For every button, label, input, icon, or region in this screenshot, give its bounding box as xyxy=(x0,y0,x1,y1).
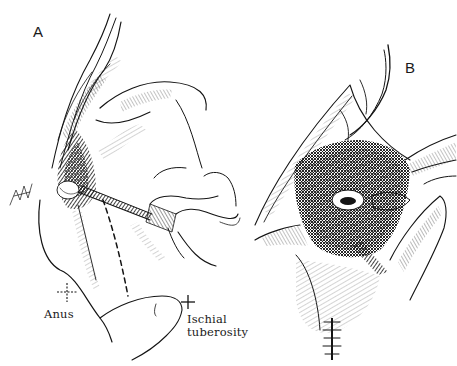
panel-b-drawing xyxy=(255,45,456,360)
panel-a-label: A xyxy=(33,23,43,40)
ischial-annotation-line-2: tuberosity xyxy=(187,326,248,339)
ischial-tuberosity-marker-icon xyxy=(181,295,195,309)
surgical-illustration: A B Anus Ischial tuberosity xyxy=(0,0,457,366)
ischial-tuberosity-annotation: Ischial tuberosity xyxy=(187,313,248,339)
panel-b-label: B xyxy=(405,59,415,76)
anus-annotation: Anus xyxy=(44,308,74,321)
artist-signature xyxy=(10,184,32,205)
anus-marker-icon xyxy=(57,283,77,302)
